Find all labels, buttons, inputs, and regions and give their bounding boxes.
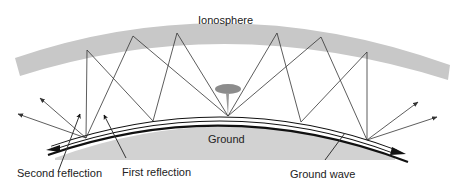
antenna-icon	[215, 84, 241, 94]
ground-label: Ground	[208, 133, 245, 145]
propagation-diagram	[0, 0, 454, 192]
ionosphere-label: Ionosphere	[198, 14, 253, 26]
ground-wave-arrow-right	[390, 147, 406, 155]
first-reflection-label: First reflection	[122, 166, 191, 178]
ground-wave-label: Ground wave	[290, 168, 355, 180]
ionosphere-band	[15, 23, 450, 80]
second-reflection-label: Second reflection	[17, 167, 102, 179]
